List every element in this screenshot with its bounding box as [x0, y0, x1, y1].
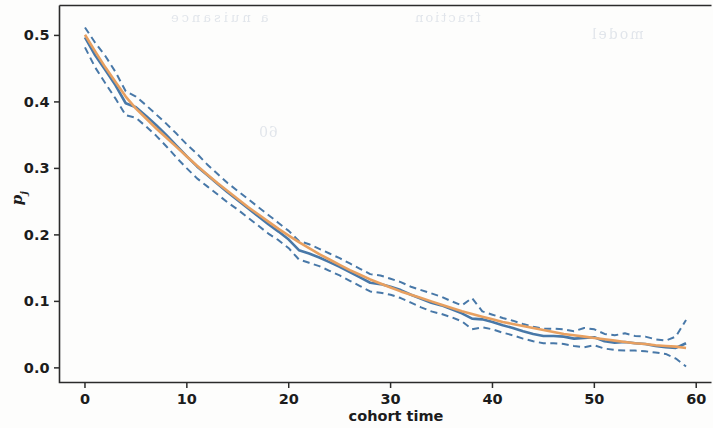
y-tick-label: 0.0 — [24, 360, 50, 376]
x-tick-label: 30 — [381, 391, 401, 407]
y-tick-label: 0.1 — [24, 293, 50, 309]
y-tick-label: 0.4 — [24, 94, 50, 110]
x-tick-label: 60 — [686, 391, 706, 407]
x-axis-ticklabels: 0102030405060 — [80, 391, 706, 407]
x-axis-tickmarks — [85, 383, 696, 389]
axes-frame — [60, 6, 712, 383]
data-series-layer — [85, 27, 686, 366]
y-tick-label: 0.2 — [24, 227, 50, 243]
x-tick-label: 20 — [279, 391, 299, 407]
series-line — [85, 37, 686, 348]
y-tick-label: 0.3 — [24, 160, 50, 176]
series-line — [85, 27, 686, 340]
y-axis-ticklabels: 0.00.10.20.30.40.5 — [24, 27, 50, 375]
x-axis-title: cohort time — [349, 408, 444, 424]
x-tick-label: 40 — [482, 391, 502, 407]
y-tick-label: 0.5 — [24, 27, 50, 43]
y-axis-tickmarks — [54, 35, 60, 367]
line-chart-plot: 0102030405060 0.00.10.20.30.40.5 cohort … — [0, 0, 713, 428]
x-tick-label: 10 — [177, 391, 197, 407]
y-axis-title: p j — [8, 191, 29, 205]
chart-figure: a nuisance fraction model 60 01020304050… — [0, 0, 713, 428]
y-axis-title-base: p — [8, 194, 26, 205]
series-line — [85, 35, 686, 348]
x-tick-label: 50 — [584, 391, 604, 407]
x-tick-label: 0 — [80, 391, 90, 407]
series-line — [85, 47, 686, 366]
